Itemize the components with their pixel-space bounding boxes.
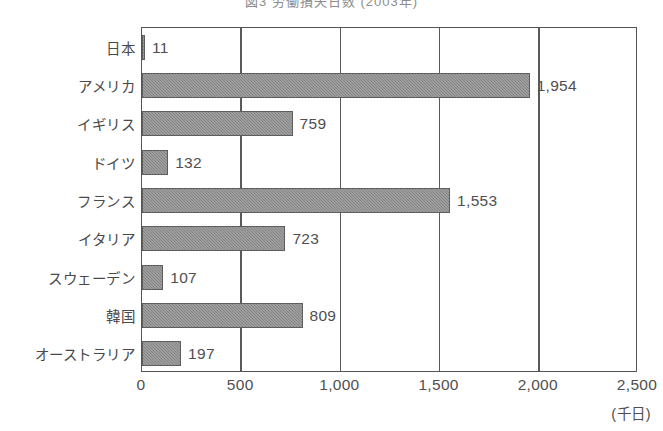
category-label: ドイツ xyxy=(0,152,135,173)
x-tick-label: 1,000 xyxy=(319,376,359,394)
bar xyxy=(142,188,450,213)
x-tick-label: 0 xyxy=(137,376,146,394)
category-label: フランス xyxy=(0,190,135,211)
bar-value-label: 197 xyxy=(188,341,215,366)
category-label: 韓国 xyxy=(0,305,135,326)
bar-value-label: 132 xyxy=(175,150,202,175)
bar xyxy=(142,226,285,251)
bar xyxy=(142,341,181,366)
bar xyxy=(142,150,168,175)
x-axis-unit-label: (千日) xyxy=(611,402,651,423)
category-label: スウェーデン xyxy=(0,267,135,288)
x-tick-label: 2,500 xyxy=(617,376,657,394)
category-axis: 日本アメリカイギリスドイツフランスイタリアスウェーデン韓国オーストラリア xyxy=(0,27,135,372)
bar xyxy=(142,35,145,60)
bar-value-label: 11 xyxy=(152,35,169,60)
plot-area: 111,9547591321,553723107809197 xyxy=(141,27,637,372)
bar xyxy=(142,303,303,328)
chart-title: 図3 労働損失日数 (2003年) xyxy=(0,0,663,9)
bar xyxy=(142,265,163,290)
bars-layer: 111,9547591321,553723107809197 xyxy=(142,28,636,371)
bar-value-label: 1,954 xyxy=(537,73,577,98)
category-label: オーストラリア xyxy=(0,343,135,364)
x-tick-label: 500 xyxy=(227,376,254,394)
category-label: イタリア xyxy=(0,228,135,249)
bar-value-label: 107 xyxy=(170,265,197,290)
bar xyxy=(142,111,293,136)
bar-value-label: 759 xyxy=(300,111,327,136)
category-label: イギリス xyxy=(0,113,135,134)
x-tick-label: 2,000 xyxy=(518,376,558,394)
bar-value-label: 723 xyxy=(292,226,319,251)
bar-value-label: 809 xyxy=(310,303,337,328)
category-label: アメリカ xyxy=(0,75,135,96)
bar-chart-figure: 図3 労働損失日数 (2003年) 日本アメリカイギリスドイツフランスイタリアス… xyxy=(0,0,663,431)
bar xyxy=(142,73,530,98)
x-tick-label: 1,500 xyxy=(418,376,458,394)
category-label: 日本 xyxy=(0,37,135,58)
bar-value-label: 1,553 xyxy=(457,188,497,213)
x-axis-tick-labels: 05001,0001,5002,0002,500 xyxy=(141,376,637,398)
